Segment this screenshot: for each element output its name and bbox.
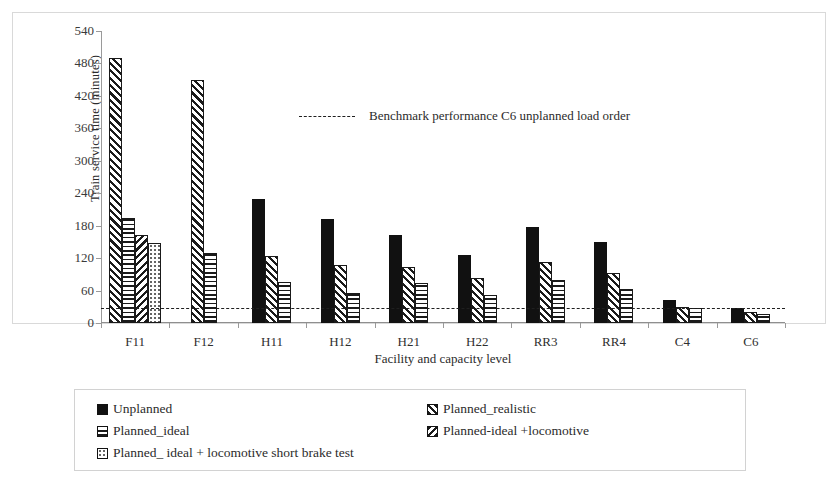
bar xyxy=(471,278,484,323)
legend-label: Unplanned xyxy=(113,401,172,417)
bar xyxy=(389,235,402,323)
bar xyxy=(109,58,122,323)
legend-swatch-icon xyxy=(97,404,108,415)
bar xyxy=(252,199,265,323)
y-tick-label: 0 xyxy=(88,315,95,331)
bar-group xyxy=(306,31,374,323)
legend-swatch-icon xyxy=(427,426,438,437)
x-tick-mark xyxy=(306,323,307,328)
bar xyxy=(757,314,770,323)
y-tick-label: 60 xyxy=(81,283,94,299)
bar-group xyxy=(101,31,169,323)
legend-item-planned-ideal-locomotive: Planned-ideal +locomotive xyxy=(427,423,589,439)
x-tick-mark xyxy=(169,323,170,328)
bar-group xyxy=(717,31,785,323)
bar xyxy=(731,308,744,323)
bar xyxy=(620,289,633,323)
x-tick-label: H22 xyxy=(466,334,488,350)
y-tick-label: 360 xyxy=(75,120,95,136)
legend-label: Planned_ ideal + locomotive short brake … xyxy=(113,445,354,461)
legend-item-planned-ideal-brake-test: Planned_ ideal + locomotive short brake … xyxy=(97,445,427,461)
benchmark-line xyxy=(101,308,785,309)
x-tick-label: C6 xyxy=(743,334,758,350)
y-tick-label: 180 xyxy=(75,218,95,234)
bar xyxy=(676,307,689,323)
legend-item-unplanned: Unplanned xyxy=(97,401,427,417)
x-tick-mark xyxy=(785,323,786,328)
chart-legend: Unplanned Planned_realistic Planned_idea… xyxy=(74,389,746,471)
legend-row: Planned_ideal Planned-ideal +locomotive xyxy=(75,420,745,442)
bar xyxy=(484,295,497,323)
y-tick-label: 480 xyxy=(75,55,95,71)
bar xyxy=(744,312,757,323)
y-tick-label: 420 xyxy=(75,88,95,104)
bar xyxy=(415,283,428,323)
bar xyxy=(458,255,471,323)
bar xyxy=(191,80,204,323)
plot-area: 060120180240300360420480540 F11F12H11H12… xyxy=(101,31,785,323)
bar-group xyxy=(580,31,648,323)
x-tick-mark xyxy=(443,323,444,328)
chart-figure: Train service time (minutes) 06012018024… xyxy=(12,12,826,324)
x-tick-mark xyxy=(375,323,376,328)
benchmark-annotation: Benchmark performance C6 unplanned load … xyxy=(299,108,630,124)
legend-row: Unplanned Planned_realistic xyxy=(75,398,745,420)
x-tick-label: F12 xyxy=(193,334,213,350)
bar xyxy=(663,300,676,323)
y-tick-label: 300 xyxy=(75,153,95,169)
x-tick-label: H21 xyxy=(398,334,420,350)
bar-group xyxy=(511,31,579,323)
x-tick-label: RR3 xyxy=(534,334,558,350)
bar-group xyxy=(169,31,237,323)
bar xyxy=(539,262,552,323)
bar xyxy=(278,282,291,323)
benchmark-annotation-label: Benchmark performance C6 unplanned load … xyxy=(369,108,630,124)
x-tick-label: H11 xyxy=(261,334,283,350)
legend-label: Planned-ideal +locomotive xyxy=(443,423,589,439)
benchmark-dash-icon xyxy=(299,116,355,117)
plot-inner: 060120180240300360420480540 F11F12H11H12… xyxy=(101,31,785,323)
bar xyxy=(607,273,620,323)
bar xyxy=(204,253,217,323)
legend-swatch-icon xyxy=(97,426,108,437)
y-tick-label: 120 xyxy=(75,250,95,266)
x-tick-label: F11 xyxy=(125,334,145,350)
y-tick-label: 240 xyxy=(75,185,95,201)
legend-label: Planned_realistic xyxy=(443,401,536,417)
bar xyxy=(148,243,161,323)
bar-group xyxy=(443,31,511,323)
x-tick-label: H12 xyxy=(329,334,351,350)
legend-row: Planned_ ideal + locomotive short brake … xyxy=(75,442,745,464)
bar xyxy=(594,242,607,323)
legend-item-planned-ideal: Planned_ideal xyxy=(97,423,427,439)
legend-item-planned-realistic: Planned_realistic xyxy=(427,401,536,417)
bar-group xyxy=(375,31,443,323)
legend-swatch-icon xyxy=(97,448,108,459)
x-tick-mark xyxy=(648,323,649,328)
x-tick-label: C4 xyxy=(675,334,690,350)
bar xyxy=(689,308,702,323)
bar xyxy=(334,265,347,323)
bar-group xyxy=(238,31,306,323)
x-tick-mark xyxy=(717,323,718,328)
bar-group xyxy=(648,31,716,323)
bar xyxy=(552,280,565,323)
legend-label: Planned_ideal xyxy=(113,423,189,439)
x-tick-mark xyxy=(101,323,102,328)
legend-swatch-icon xyxy=(427,404,438,415)
x-tick-mark xyxy=(511,323,512,328)
y-tick-label: 540 xyxy=(75,23,95,39)
bar xyxy=(135,235,148,323)
x-tick-mark xyxy=(238,323,239,328)
x-axis-title: Facility and capacity level xyxy=(101,351,785,367)
x-tick-label: RR4 xyxy=(602,334,626,350)
x-tick-mark xyxy=(580,323,581,328)
bar xyxy=(265,256,278,323)
bar xyxy=(402,267,415,323)
